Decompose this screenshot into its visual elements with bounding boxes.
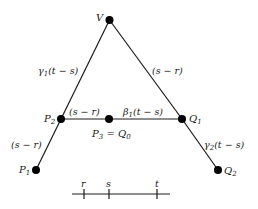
label-q1: Q1	[189, 113, 202, 126]
label-gamma2: γ2(t − s)	[204, 139, 245, 152]
label-p1: P1	[18, 164, 30, 177]
diagram-canvas: V P2 Q1 P1 Q2 P3 = Q0 γ1(t − s) (s − r) …	[0, 0, 258, 209]
label-v: V	[96, 12, 105, 23]
diagram-svg: V P2 Q1 P1 Q2 P3 = Q0 γ1(t − s) (s − r) …	[0, 0, 258, 209]
label-p3-equals-q0: P3 = Q0	[91, 128, 131, 141]
label-gamma1: γ1(t − s)	[38, 65, 79, 78]
label-p2: P2	[43, 113, 56, 126]
label-p2-p1-weight: (s − r)	[11, 139, 42, 150]
node-p2	[57, 115, 65, 123]
node-q1	[178, 115, 186, 123]
timeline-label-t: t	[155, 178, 159, 189]
timeline-label-r: r	[81, 178, 87, 189]
label-beta1: β1(t − s)	[122, 106, 163, 119]
label-p2-p3-weight: (s − r)	[69, 106, 100, 117]
node-q2	[214, 166, 222, 174]
node-p3	[105, 115, 113, 123]
label-v-q1-weight: (s − r)	[152, 65, 183, 76]
node-v	[106, 16, 114, 24]
timeline-label-s: s	[106, 178, 111, 189]
label-q2: Q2	[224, 165, 237, 178]
node-p1	[32, 166, 40, 174]
